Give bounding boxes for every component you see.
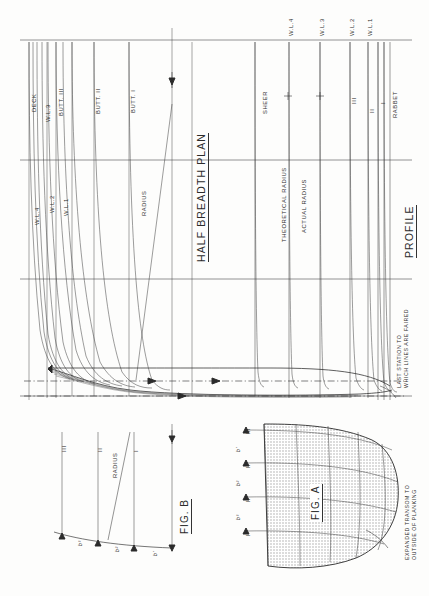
label-butt-3-profile: III <box>352 97 358 104</box>
label-fig-b-1: I <box>134 450 140 452</box>
label-fig-b-b3: b³ <box>78 540 83 546</box>
label-fig-a-3: III <box>246 428 251 434</box>
label-fig-a-2b: II <box>246 498 251 502</box>
label-butt-3-plan: BUTT. III <box>59 88 65 116</box>
half-breadth-stations <box>29 28 192 400</box>
hull-interior-waterlines <box>50 370 358 398</box>
label-butt-2-profile: II <box>370 109 376 113</box>
label-wl1-profile: W.L.1 <box>368 18 374 36</box>
expanded-transom-note: EXPANDED TRANSOM TO OUTSIDE OF PLANKING <box>404 485 418 560</box>
label-butt-2-plan: BUTT. II <box>96 88 102 114</box>
label-fig-a-2a: II <box>246 464 251 468</box>
expanded-transom-note-line1: EXPANDED TRANSOM TO <box>404 485 411 560</box>
label-wl3-plan: W.L.3 <box>46 104 52 122</box>
datum-arrow-icon <box>169 72 175 88</box>
label-fig-a-b2: b² <box>236 480 241 486</box>
label-fig-b-radius: RADIUS <box>113 452 119 478</box>
label-wl2-plan: W.L.2 <box>50 195 56 213</box>
half-breadth-grid <box>20 40 412 396</box>
label-fig-b-3: III <box>62 445 68 452</box>
label-fig-a-b1: b' <box>236 447 241 452</box>
fig-b-datum-arrow-icon <box>169 430 175 444</box>
label-fig-b-b2: b² <box>115 546 120 552</box>
fig-a-caption: FIG. A <box>310 484 323 522</box>
profile-radius-marks <box>284 92 324 100</box>
lines-plan-sheet: DECK W.L.3 BUTT. III BUTT. II BUTT. I W.… <box>0 0 429 596</box>
label-butt-1-plan: BUTT. I <box>131 89 137 113</box>
label-actual-radius: ACTUAL RADIUS <box>302 179 308 233</box>
label-sheer: SHEER <box>263 91 269 114</box>
radius-construction-line <box>136 104 172 380</box>
last-station-note-line2: WHICH LINES ARE FAIRED <box>403 309 410 388</box>
label-wl1-plan: W.L.1 <box>64 198 70 216</box>
label-wl2-profile: W.L.2 <box>350 18 356 36</box>
fig-a-dimension-arrows <box>243 427 249 534</box>
label-wl3-profile: W.L.3 <box>320 18 326 36</box>
label-fig-b-2: II <box>98 448 104 452</box>
hull-outline-upper <box>48 368 390 386</box>
label-butt-1-profile: I <box>381 102 387 104</box>
label-theoretical-radius: THEORETICAL RADIUS <box>282 167 288 242</box>
fig-b-curve <box>54 532 172 548</box>
profile-title: PROFILE <box>404 205 417 258</box>
fig-b-stations <box>62 424 172 552</box>
expanded-transom-note-line2: OUTSIDE OF PLANKING <box>411 485 418 560</box>
label-radius-plan: RADIUS <box>142 190 148 216</box>
label-wl4-plan: W.L.4 <box>35 207 41 225</box>
fig-a-transom-shape <box>264 424 398 568</box>
last-station-note-line1: LAST STATION TO <box>396 309 403 388</box>
fig-b-caption: FIG. B <box>180 499 192 534</box>
label-fig-b-b1: b' <box>153 551 158 556</box>
label-wl4-profile: W.L.4 <box>289 18 295 36</box>
label-fig-a-b3: b³ <box>236 514 241 520</box>
label-rabbet: RABBET <box>393 91 399 118</box>
label-deck: DECK <box>32 93 38 112</box>
last-station-note: LAST STATION TO WHICH LINES ARE FAIRED <box>396 309 410 388</box>
label-fig-a-1: I <box>246 534 251 536</box>
profile-stations <box>255 42 390 400</box>
profile-curves <box>255 42 397 392</box>
half-breadth-plan-title: HALF BREADTH PLAN <box>196 133 209 262</box>
